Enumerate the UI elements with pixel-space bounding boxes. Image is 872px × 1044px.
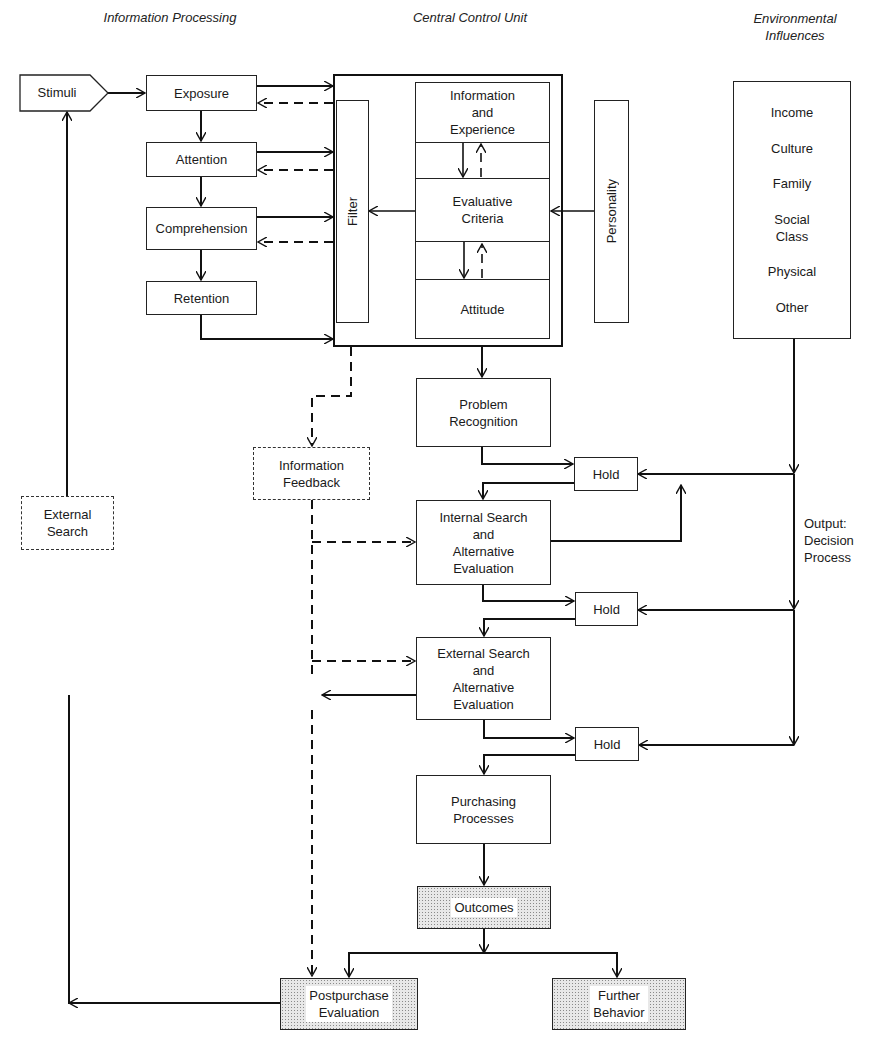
further-behavior-box[interactable]: Further Behavior (552, 978, 686, 1030)
postpurchase-evaluation-box[interactable]: Postpurchase Evaluation (280, 978, 418, 1030)
env-culture: Culture (771, 140, 813, 157)
comprehension-box[interactable]: Comprehension (146, 207, 257, 250)
postpurchase-label: Postpurchase Evaluation (306, 986, 392, 1022)
attitude-label: Attitude (460, 301, 504, 318)
external-search-line1: External (44, 506, 92, 523)
further-behavior-line2: Behavior (593, 1004, 644, 1021)
env-physical: Physical (768, 263, 816, 280)
attention-box[interactable]: Attention (146, 142, 257, 177)
postpurchase-line2: Evaluation (309, 1004, 389, 1021)
header-environmental-influences: Environmental Influences (720, 10, 870, 44)
external-search-eval-box[interactable]: External Search and Alternative Evaluati… (416, 637, 551, 720)
header-env-line2: Influences (720, 27, 870, 44)
retention-box[interactable]: Retention (146, 281, 257, 315)
filter-label: Filter (344, 197, 361, 226)
link-cell-lower (415, 241, 550, 280)
info-exp-line3: Experience (450, 121, 515, 138)
hold-box-3[interactable]: Hold (575, 727, 639, 761)
comprehension-label: Comprehension (156, 220, 248, 237)
environmental-influences-box[interactable]: Income Culture Family Social Class Physi… (733, 81, 851, 339)
internal-search-line4: Evaluation (453, 560, 514, 577)
eval-criteria-line2: Criteria (462, 210, 504, 227)
problem-recognition-line1: Problem (459, 396, 507, 413)
retention-label: Retention (174, 290, 230, 307)
personality-label: Personality (603, 179, 620, 243)
header-information-processing: Information Processing (80, 10, 260, 25)
attention-label: Attention (176, 151, 227, 168)
evaluative-criteria-box[interactable]: Evaluative Criteria (415, 178, 550, 242)
info-feedback-line1: Information (279, 457, 344, 474)
hold-label-3: Hold (594, 736, 621, 753)
hold-label-1: Hold (593, 466, 620, 483)
attitude-box[interactable]: Attitude (415, 279, 550, 339)
link-cell-upper (415, 142, 550, 179)
header-env-line1: Environmental (720, 10, 870, 27)
env-social-class: Social Class (774, 211, 809, 245)
filter-box[interactable]: Filter (336, 100, 369, 323)
info-exp-line1: Information (450, 87, 515, 104)
output-line3: Process (804, 549, 854, 566)
internal-search-line1: Internal Search (439, 509, 527, 526)
external-search-eval-line3: Alternative (453, 679, 514, 696)
personality-box[interactable]: Personality (594, 100, 629, 323)
internal-search-line3: Alternative (453, 543, 514, 560)
header-central-control-unit: Central Control Unit (390, 10, 550, 25)
output-line1: Output: (804, 515, 854, 532)
further-behavior-label: Further Behavior (590, 986, 647, 1022)
info-exp-line2: and (472, 104, 494, 121)
problem-recognition-box[interactable]: Problem Recognition (416, 378, 551, 447)
output-line2: Decision (804, 532, 854, 549)
purchasing-line2: Processes (453, 810, 514, 827)
external-search-eval-line2: and (473, 662, 495, 679)
internal-search-box[interactable]: Internal Search and Alternative Evaluati… (416, 500, 551, 585)
output-decision-process-label: Output: Decision Process (804, 515, 854, 566)
env-social-line1: Social (774, 211, 809, 228)
purchasing-processes-box[interactable]: Purchasing Processes (416, 775, 551, 844)
outcomes-box[interactable]: Outcomes (417, 886, 551, 929)
env-family: Family (773, 175, 811, 192)
eval-criteria-line1: Evaluative (453, 193, 513, 210)
information-experience-box[interactable]: Information and Experience (415, 82, 550, 143)
external-search-box[interactable]: External Search (21, 496, 114, 550)
hold-label-2: Hold (593, 601, 620, 618)
info-feedback-line2: Feedback (283, 474, 340, 491)
hold-box-1[interactable]: Hold (574, 457, 638, 491)
stimuli-label[interactable]: Stimuli (24, 84, 90, 101)
further-behavior-line1: Further (593, 987, 644, 1004)
purchasing-line1: Purchasing (451, 793, 516, 810)
internal-search-line2: and (473, 526, 495, 543)
env-income: Income (771, 104, 814, 121)
external-search-line2: Search (47, 523, 88, 540)
external-search-eval-line4: Evaluation (453, 696, 514, 713)
outcomes-label: Outcomes (451, 898, 516, 917)
exposure-box[interactable]: Exposure (146, 75, 257, 111)
information-feedback-box[interactable]: Information Feedback (253, 447, 370, 500)
env-social-line2: Class (774, 228, 809, 245)
exposure-label: Exposure (174, 85, 229, 102)
postpurchase-line1: Postpurchase (309, 987, 389, 1004)
env-other: Other (776, 299, 809, 316)
hold-box-2[interactable]: Hold (575, 592, 638, 626)
problem-recognition-line2: Recognition (449, 413, 518, 430)
external-search-eval-line1: External Search (437, 645, 530, 662)
